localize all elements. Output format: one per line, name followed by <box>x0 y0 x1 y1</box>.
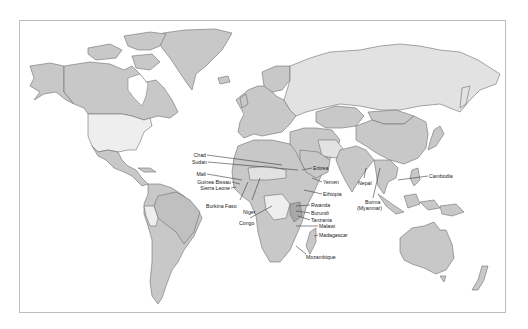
label-burundi: Burundi <box>311 210 329 216</box>
label-rwanda: Rwanda <box>311 202 330 208</box>
tasmania <box>440 276 446 282</box>
madagascar <box>306 228 316 254</box>
label-chad: Chad <box>180 152 206 158</box>
label-congo: Congo <box>239 220 254 226</box>
caribbean <box>138 168 156 172</box>
label-niger: Niger <box>243 209 255 215</box>
label-sierra-leone: Sierra Leone <box>180 185 230 191</box>
label-ethiopia: Ethiopia <box>323 191 342 197</box>
usa <box>88 114 152 152</box>
label-nepal: Nepal <box>358 180 372 186</box>
label-burkina-faso: Burkina Faso <box>206 203 237 209</box>
label-mozambique: Mozambique <box>306 254 336 260</box>
label-malawi: Malawi <box>319 223 335 229</box>
label-sudan: Sudan <box>180 159 207 165</box>
indonesia <box>378 194 464 216</box>
world-map <box>0 0 528 329</box>
canada <box>64 62 178 120</box>
label-eritrea: Eritrea <box>313 165 328 171</box>
label-cambodia: Cambodia <box>429 173 453 179</box>
australia <box>400 222 454 274</box>
japan <box>428 126 444 150</box>
iceland <box>218 76 230 84</box>
russia <box>284 44 500 116</box>
kazakhstan <box>316 106 364 128</box>
mexico <box>92 146 148 186</box>
label-myanmar: (Myanmar) <box>357 205 382 211</box>
new-zealand <box>472 266 488 290</box>
label-mali: Mali <box>180 171 206 177</box>
label-madagascar: Madagascar <box>319 232 348 238</box>
label-yemen: Yemen <box>323 179 339 185</box>
